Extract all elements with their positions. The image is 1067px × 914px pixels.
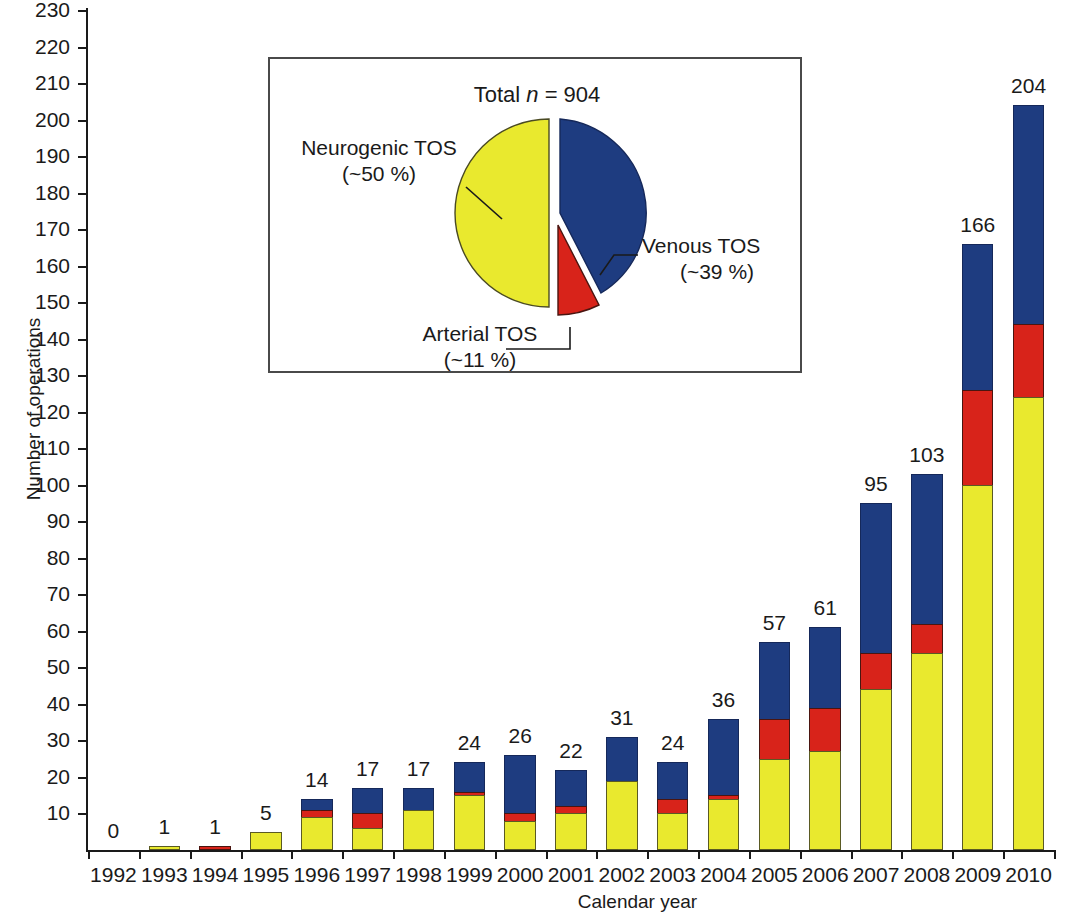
- x-axis-tickmark-2: [190, 850, 192, 859]
- bar-segment-2006-ven: [809, 627, 841, 707]
- bar-segment-2007-ven: [860, 503, 892, 653]
- bar-value-label-2009: 166: [933, 214, 1023, 235]
- bar-segment-1994-art: [199, 846, 231, 850]
- x-axis-tickmark-8: [495, 850, 497, 859]
- y-axis-tick-80: 80: [18, 547, 70, 568]
- bar-segment-1998-ven: [403, 788, 435, 810]
- x-axis-tickmark-5: [342, 850, 344, 859]
- bar-segment-2005-neuro: [759, 759, 791, 850]
- bar-segment-2002-neuro: [606, 781, 638, 850]
- bar-2007[interactable]: [860, 503, 892, 850]
- y-axis-tick-labels: 1020304050607080901001101201301401501601…: [18, 0, 70, 914]
- y-axis-tick-210: 210: [18, 72, 70, 93]
- pie-label-venous-percent: (~39 %): [642, 259, 792, 285]
- y-axis-tick-60: 60: [18, 620, 70, 641]
- bar-segment-2001-ven: [555, 770, 587, 807]
- bar-segment-2001-neuro: [555, 813, 587, 850]
- x-axis-label: Calendar year: [0, 891, 1067, 913]
- bar-2009[interactable]: [962, 244, 994, 850]
- bar-segment-2010-neuro: [1013, 397, 1045, 850]
- y-axis-tick-100: 100: [18, 474, 70, 495]
- pie-label-arterial: Arterial TOS (~11 %): [390, 321, 570, 372]
- bar-segment-2003-ven: [657, 762, 689, 799]
- bar-value-label-2001: 22: [526, 740, 616, 761]
- chart-figure: Number of operations 1020304050607080901…: [0, 0, 1067, 914]
- pie-label-neurogenic: Neurogenic TOS (~50 %): [286, 135, 472, 186]
- x-axis-line: [86, 850, 1054, 852]
- bar-segment-1997-neuro: [352, 828, 384, 850]
- pie-label-neurogenic-percent: (~50 %): [286, 161, 472, 187]
- x-axis-tickmark-1: [139, 850, 141, 859]
- y-axis-tick-120: 120: [18, 401, 70, 422]
- x-axis-tickmark-10: [596, 850, 598, 859]
- bar-segment-2005-art: [759, 719, 791, 759]
- bar-value-label-2004: 36: [679, 689, 769, 710]
- y-axis-tick-220: 220: [18, 36, 70, 57]
- bar-value-label-2010: 204: [984, 75, 1067, 96]
- bar-value-label-2002: 31: [577, 707, 667, 728]
- y-axis-tick-150: 150: [18, 291, 70, 312]
- bar-segment-2010-art: [1013, 324, 1045, 397]
- x-axis-label-text: Calendar year: [578, 891, 697, 912]
- x-axis-tickmark-end: [1054, 850, 1056, 859]
- pie-inset-panel: Total n = 904 Neurogenic TOS (~50 %) Ven…: [268, 57, 802, 373]
- x-axis-tickmark-6: [393, 850, 395, 859]
- y-axis-tick-10: 10: [18, 802, 70, 823]
- bar-segment-2000-art: [504, 813, 536, 820]
- x-axis-tickmark-12: [698, 850, 700, 859]
- bar-1997[interactable]: [352, 788, 384, 850]
- y-axis-tick-110: 110: [18, 437, 70, 458]
- bar-2003[interactable]: [657, 762, 689, 850]
- y-axis-tick-140: 140: [18, 328, 70, 349]
- bar-1993[interactable]: [149, 846, 181, 850]
- y-axis-tick-230: 230: [18, 0, 70, 20]
- bar-segment-2006-neuro: [809, 751, 841, 850]
- y-axis-tick-90: 90: [18, 510, 70, 531]
- bar-value-label-2006: 61: [780, 597, 870, 618]
- bar-1998[interactable]: [403, 788, 435, 850]
- x-axis-tickmark-18: [1003, 850, 1005, 859]
- x-axis-tickmark-17: [952, 850, 954, 859]
- bar-2006[interactable]: [809, 627, 841, 850]
- bar-segment-2000-ven: [504, 755, 536, 813]
- x-axis-tickmark-3: [241, 850, 243, 859]
- x-axis-tickmark-13: [749, 850, 751, 859]
- x-axis-tickmark-16: [901, 850, 903, 859]
- x-axis-tick-2010: 2010: [984, 864, 1067, 885]
- bar-segment-2003-art: [657, 799, 689, 814]
- bar-segment-2009-ven: [962, 244, 994, 390]
- pie-label-venous-name: Venous TOS: [642, 234, 760, 257]
- y-axis-tick-20: 20: [18, 766, 70, 787]
- bar-2001[interactable]: [555, 770, 587, 850]
- y-axis-tick-70: 70: [18, 583, 70, 604]
- y-axis-tick-160: 160: [18, 255, 70, 276]
- pie-label-neurogenic-name: Neurogenic TOS: [301, 136, 457, 159]
- bar-segment-2000-neuro: [504, 821, 536, 850]
- y-axis-tick-180: 180: [18, 182, 70, 203]
- x-axis-tickmark-11: [647, 850, 649, 859]
- bar-1994[interactable]: [199, 846, 231, 850]
- bar-value-label-2008: 103: [882, 444, 972, 465]
- bar-segment-2004-neuro: [708, 799, 740, 850]
- bar-value-label-1998: 17: [373, 758, 463, 779]
- x-axis-tickmark-7: [444, 850, 446, 859]
- y-axis-tick-40: 40: [18, 693, 70, 714]
- bar-segment-2004-ven: [708, 719, 740, 796]
- y-axis-tick-50: 50: [18, 656, 70, 677]
- bar-segment-2008-ven: [911, 474, 943, 624]
- y-axis-tick-190: 190: [18, 145, 70, 166]
- bar-segment-1999-neuro: [454, 795, 486, 850]
- y-axis-tick-30: 30: [18, 729, 70, 750]
- bar-value-label-2007: 95: [831, 473, 921, 494]
- bar-segment-2001-art: [555, 806, 587, 813]
- y-axis-tick-200: 200: [18, 109, 70, 130]
- bar-2005[interactable]: [759, 642, 791, 850]
- bar-segment-1997-art: [352, 813, 384, 828]
- bar-segment-2003-neuro: [657, 813, 689, 850]
- x-axis-tickmark-0: [88, 850, 90, 859]
- x-axis-tickmark-4: [291, 850, 293, 859]
- bar-2008[interactable]: [911, 474, 943, 850]
- pie-label-venous: Venous TOS (~39 %): [642, 233, 792, 284]
- bar-segment-1993-neuro: [149, 846, 181, 850]
- bar-2000[interactable]: [504, 755, 536, 850]
